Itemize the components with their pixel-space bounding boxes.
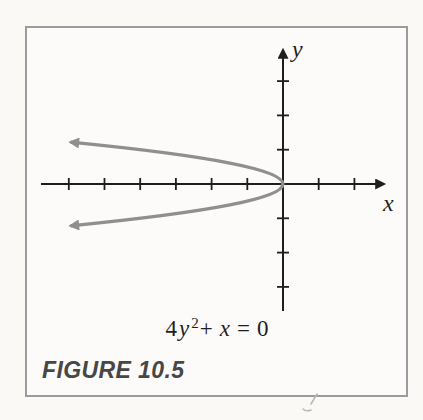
equation-coefficient: 4 [166, 316, 178, 341]
pencil-mark [303, 409, 311, 411]
equation-plus: + [200, 316, 213, 341]
y-axis-label: y [292, 37, 303, 61]
equation-variable-y: y [179, 316, 189, 341]
equation-exponent: 2 [191, 315, 199, 331]
figure-caption: FIGURE 10.5 [42, 359, 184, 382]
equation-equals: = [237, 316, 250, 341]
textbook-figure: y x 4y2+x=0 FIGURE 10.5 [0, 0, 423, 420]
pencil-mark [311, 394, 317, 404]
x-axis-label: x [383, 191, 394, 215]
equation-zero: 0 [257, 316, 269, 341]
equation-variable-x: x [220, 316, 230, 341]
equation-label: 4y2+x=0 [146, 316, 288, 342]
